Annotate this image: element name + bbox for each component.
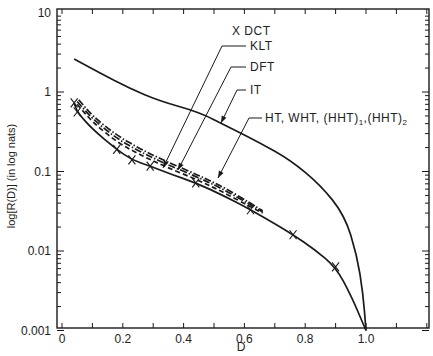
x-axis-label: D [237,340,246,354]
plot-frame [57,9,429,328]
x-marker-icon [290,230,297,239]
annotation-ht: HT, WHT, (HHT)1,(HHT)2 [265,111,408,127]
y-axis-label: log[R(D)] (in log nats) [5,124,17,229]
x-axis-ticks: 00.20.40.60.81.0 [59,9,427,346]
x-tick-label: 0 [59,332,66,346]
arrowhead-icon [218,171,224,178]
y-tick-label: 10 [38,6,52,20]
data-series [74,59,366,330]
rate-distortion-chart: 00.20.40.60.81.0 1010.10.010.001 D log[R… [0,0,433,356]
annotation-dft: DFT [250,60,275,74]
arrowhead-icon [221,116,226,123]
x-tick-label: 0.2 [114,332,131,346]
y-tick-label: 0.001 [21,324,51,338]
annotation-dct: X DCT [232,24,271,38]
series-dft [77,104,262,213]
series-it [77,101,262,211]
series-klt [74,103,366,331]
x-tick-label: 0.4 [175,332,192,346]
series-ht-wht-hht-1-hht-2 [79,100,263,211]
y-tick-label: 1 [44,85,51,99]
leader-line [163,46,246,168]
y-tick-label: 0.01 [28,244,52,258]
annotation-leaders [163,46,262,178]
x-tick-label: 0.8 [297,332,314,346]
y-axis-ticks: 1010.10.010.001 [21,6,429,338]
x-marker-icon [71,98,78,107]
y-tick-label: 0.1 [34,165,51,179]
leader-line [218,118,262,178]
annotation-klt: KLT [250,39,273,53]
x-tick-label: 1.0 [358,332,375,346]
annotation-it: IT [250,83,262,97]
x-marker-icon [113,145,120,154]
x-marker-icon [74,108,81,117]
